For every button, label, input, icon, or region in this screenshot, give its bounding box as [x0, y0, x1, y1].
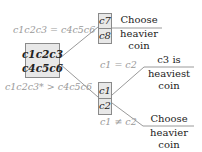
node-c1-label: c1 [99, 84, 111, 98]
condition-c1-not-equal-c2: c1 ≠ c2 [100, 116, 137, 127]
result-top-choose-heavier: Choose heavier coin [114, 14, 164, 52]
result-bottom-choose-heavier: Choose heavier coin [144, 113, 194, 151]
root-weighing-node: c1c2c3 c4c5c6 [25, 43, 60, 78]
root-label-line2: c4c5c6 [22, 61, 63, 75]
result-line: Choose [114, 14, 164, 26]
result-c3-heaviest: c3 is heaviest coin [144, 54, 194, 92]
condition-c1-equals-c2: c1 = c2 [100, 59, 137, 70]
root-label-line1: c1c2c3 [22, 47, 63, 61]
result-line: coin [144, 139, 194, 151]
result-line: coin [144, 80, 194, 92]
result-line: c3 is [144, 54, 194, 66]
result-line: heavier [114, 28, 164, 40]
node-c7-c8: c7 c8 [98, 13, 112, 44]
condition-greater: c1c2c3* > c4c5c6 [5, 81, 92, 92]
node-c2-label: c2 [99, 99, 111, 113]
node-c1-c2: c1 c2 [98, 82, 112, 115]
result-line: coin [114, 40, 164, 52]
result-line: heaviest [144, 68, 194, 80]
node-c8-label: c8 [99, 29, 111, 43]
condition-equal: c1c2c3 = c4c5c6 [13, 24, 95, 35]
result-line: heavier [144, 127, 194, 139]
result-line: Choose [144, 113, 194, 125]
node-c7-label: c7 [99, 14, 111, 28]
